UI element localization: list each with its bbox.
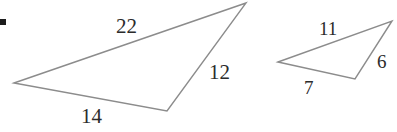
large-triangle-right-side-label: 12 — [209, 62, 230, 83]
large-triangle-top-side-label: 22 — [116, 16, 137, 37]
small-triangle-right-side-label: 6 — [377, 52, 387, 71]
triangles-svg-canvas — [0, 0, 397, 132]
corner-mark-artifact — [0, 19, 6, 25]
similar-triangles-figure: 22 12 14 11 6 7 — [0, 0, 397, 132]
small-triangle-top-side-label: 11 — [319, 19, 337, 38]
large-triangle-bottom-side-label: 14 — [81, 106, 102, 127]
small-triangle-bottom-side-label: 7 — [304, 78, 314, 97]
